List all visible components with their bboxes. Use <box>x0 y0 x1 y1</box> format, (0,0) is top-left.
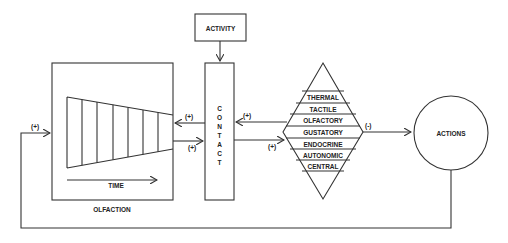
sense-central: CENTRAL <box>307 163 338 170</box>
actions-label: ACTIONS <box>436 130 466 137</box>
sense-tactile: TACTILE <box>310 106 338 113</box>
contact-letter: O <box>217 114 222 121</box>
actions-node: ACTIONS <box>414 96 488 170</box>
contact-box: C O N T A C T <box>205 63 234 200</box>
contact-letter: C <box>217 150 222 157</box>
contact-letter: N <box>217 123 222 130</box>
sign-label: (+) <box>188 144 196 152</box>
sense-thermal: THERMAL <box>307 94 339 101</box>
olfaction-label: OLFACTION <box>93 206 131 213</box>
activity-label: ACTIVITY <box>206 25 236 32</box>
feedback-diagram: ACTIVITY TIME OLFACTION C O N T A C T (+… <box>0 0 508 243</box>
contact-letter: C <box>217 105 222 112</box>
sign-label: (+) <box>185 113 193 121</box>
sign-label: (+) <box>268 143 276 151</box>
sign-label: (-) <box>365 122 372 130</box>
contact-letter: T <box>218 159 222 166</box>
sense-autonomic: AUTONOMIC <box>303 152 343 159</box>
contact-letter: T <box>218 132 222 139</box>
contact-letter: A <box>217 141 222 148</box>
sign-label: (+) <box>31 123 39 131</box>
sense-gustatory: GUSTATORY <box>303 129 343 136</box>
activity-box: ACTIVITY <box>195 14 246 41</box>
sense-olfactory: OLFACTORY <box>303 117 343 124</box>
sense-endocrine: ENDOCRINE <box>303 141 343 148</box>
decay-trapezoid <box>67 97 173 168</box>
olfaction-box: TIME <box>52 63 173 200</box>
senses-diamond: THERMAL TACTILE OLFACTORY GUSTATORY ENDO… <box>283 63 363 199</box>
time-label: TIME <box>108 182 124 189</box>
sign-label: (+) <box>243 112 251 120</box>
